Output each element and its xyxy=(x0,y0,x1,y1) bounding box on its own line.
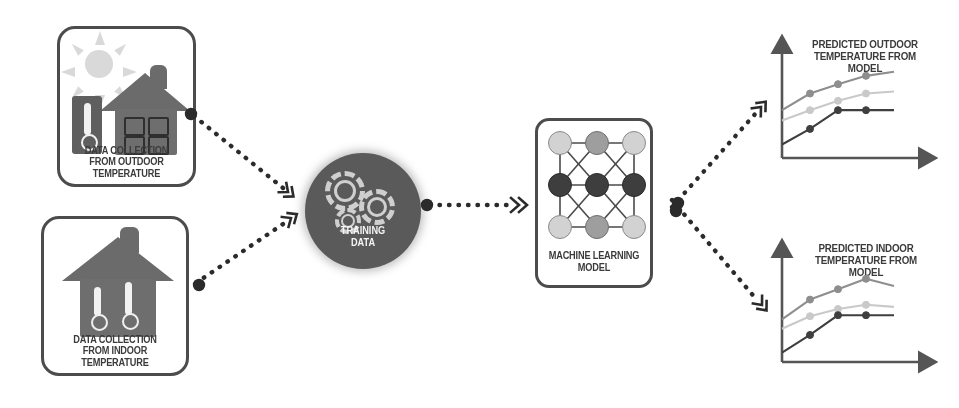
connector-indoor-to-hub xyxy=(196,222,286,283)
connector-origin-dot xyxy=(193,279,205,291)
connector-origin-dot xyxy=(670,205,682,217)
connector-model-to-indoor-chart xyxy=(672,200,757,300)
connector-origin-dot xyxy=(185,108,197,120)
connector-outdoor-to-hub xyxy=(194,116,283,188)
diagram-canvas: DATA COLLECTION FROM OUTDOOR TEMPERATURE xyxy=(0,0,959,408)
arrowhead-double-chevron xyxy=(279,183,297,201)
arrowhead-double-chevron xyxy=(511,198,527,212)
connector-model-to-outdoor-chart xyxy=(672,113,756,207)
connector-origin-dot xyxy=(421,199,433,211)
connector-layer xyxy=(0,0,959,408)
arrowhead-double-chevron xyxy=(753,296,771,314)
